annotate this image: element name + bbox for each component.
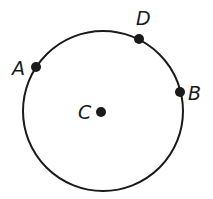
point-a-label: A: [10, 57, 25, 79]
point-c-label: C: [78, 101, 92, 123]
point-b-label: B: [188, 82, 201, 104]
point-a-dot: [31, 62, 41, 72]
circle-diagram: ADBC: [0, 0, 213, 199]
point-d-label: D: [136, 7, 151, 29]
point-b-dot: [175, 87, 185, 97]
point-c-dot: [96, 107, 106, 117]
point-d-dot: [134, 34, 144, 44]
